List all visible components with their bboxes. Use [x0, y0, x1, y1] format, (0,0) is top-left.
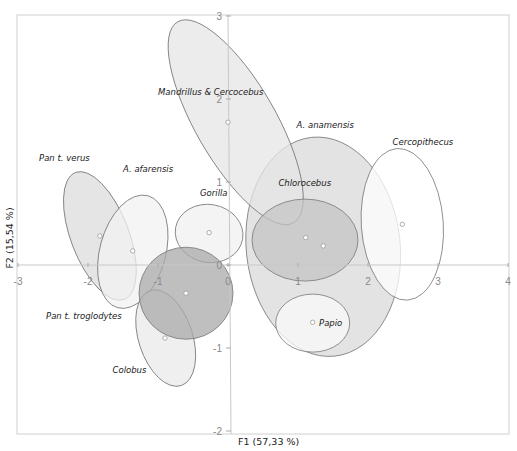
x-tick-label: 1: [295, 276, 301, 287]
x-tick-label: 3: [435, 276, 441, 287]
x-tick-label: -3: [14, 276, 23, 287]
x-tick-label: -2: [84, 276, 93, 287]
label-a-afarensis: A. afarensis: [122, 164, 174, 174]
point-pan-t-verus: [98, 234, 102, 238]
y-tick-label: -1: [213, 343, 222, 354]
point-pan-t-troglodytes: [184, 291, 188, 295]
label-pan-t-verus: Pan t. verus: [39, 153, 90, 163]
pca-scatter-chart: -3-2-101234-2-10123 Mandrillus & Cercoce…: [0, 0, 517, 451]
point-a-anamensis: [321, 244, 325, 248]
point-colobus: [163, 336, 167, 340]
label-mandrillus-cercocebus: Mandrillus & Cercocebus: [158, 87, 264, 97]
point-cercopithecus: [400, 222, 404, 226]
y-axis-title: F2 (15,54 %): [4, 207, 15, 268]
confidence-ellipses: [48, 2, 448, 394]
point-mandrillus-cercocebus: [226, 120, 230, 124]
y-tick-label: 0: [216, 260, 222, 271]
y-tick-label: 3: [216, 11, 222, 22]
point-papio: [311, 320, 315, 324]
y-tick-label: 1: [216, 177, 222, 188]
label-gorilla: Gorilla: [200, 188, 228, 198]
x-tick-label: 0: [225, 276, 231, 287]
x-tick-label: 2: [365, 276, 371, 287]
x-axis-title: F1 (57,33 %): [238, 436, 299, 447]
point-chlorocebus: [304, 235, 308, 239]
label-papio: Papio: [319, 318, 342, 328]
point-gorilla: [207, 230, 211, 234]
label-chlorocebus: Chlorocebus: [278, 178, 331, 188]
label-colobus: Colobus: [113, 365, 147, 375]
label-pan-t-troglodytes: Pan t. troglodytes: [46, 311, 122, 321]
label-a-anamensis: A. anamensis: [296, 120, 355, 130]
label-cercopithecus: Cercopithecus: [393, 137, 454, 147]
x-tick-label: 4: [505, 276, 511, 287]
x-tick-label: -1: [154, 276, 163, 287]
point-a-afarensis: [131, 249, 135, 253]
y-tick-label: -2: [213, 426, 222, 437]
